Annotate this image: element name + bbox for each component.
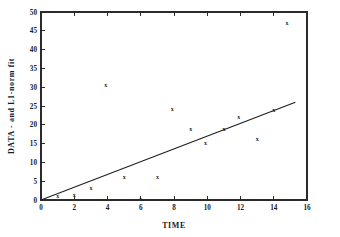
data-point-marker: x	[189, 126, 192, 132]
y-tick-label: 35	[30, 65, 38, 73]
data-point-marker: x	[286, 20, 289, 26]
y-tick-label: 15	[30, 140, 38, 148]
x-axis-title: TIME	[162, 221, 186, 230]
x-tick-label: 6	[139, 204, 143, 212]
plot-frame	[41, 12, 307, 200]
y-tick-label: 0	[33, 197, 37, 205]
y-tick-label: 20	[30, 121, 38, 129]
x-tick-label: 16	[303, 204, 311, 212]
data-point-marker: x	[237, 114, 240, 120]
x-tick-label: 12	[237, 204, 245, 212]
y-tick-label: 50	[30, 9, 38, 17]
x-tick-label: 8	[172, 204, 176, 212]
y-tick-label: 45	[30, 27, 38, 35]
x-tick-label: 2	[72, 204, 76, 212]
y-tick-label: 30	[30, 84, 38, 92]
data-point-marker: x	[256, 136, 259, 142]
data-point-marker: x	[56, 193, 59, 199]
y-tick-label: 5	[33, 178, 37, 186]
data-point-marker: x	[156, 174, 159, 180]
x-tick-label: 10	[204, 204, 212, 212]
x-tick-label: 4	[106, 204, 110, 212]
y-axis-ticks: 05101520253035404550	[30, 9, 45, 205]
data-point-marker: x	[272, 107, 275, 113]
y-axis-title: DATA - and L1-norm fit	[7, 58, 16, 154]
y-tick-label: 10	[30, 159, 38, 167]
data-point-marker: x	[171, 106, 174, 112]
y-tick-label: 25	[30, 103, 38, 111]
data-point-marker: x	[73, 192, 76, 198]
data-point-marker: x	[204, 140, 207, 146]
scatter-plot-canvas: 05101520253035404550 0246810121416 xxxxx…	[0, 0, 340, 237]
data-point-marker: x	[123, 174, 126, 180]
y-tick-label: 40	[30, 46, 38, 54]
x-tick-label: 14	[270, 204, 278, 212]
data-points-group: xxxxxxxxxxxxxxx	[56, 20, 288, 202]
data-point-marker: x	[104, 82, 107, 88]
chart-figure: 05101520253035404550 0246810121416 xxxxx…	[0, 0, 340, 237]
l1-norm-fit-line	[41, 102, 295, 200]
data-point-marker: x	[222, 126, 225, 132]
x-tick-label: 0	[39, 204, 43, 212]
axis-frame-path	[41, 12, 307, 200]
data-point-marker: x	[89, 185, 92, 191]
l1-norm-fit-line-group	[41, 102, 295, 200]
data-point-marker: x	[139, 196, 142, 202]
